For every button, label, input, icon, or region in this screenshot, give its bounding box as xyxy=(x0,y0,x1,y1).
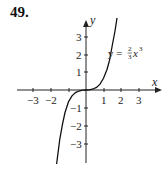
equation-numerator: 2 xyxy=(128,45,132,53)
y-axis-arrow-icon xyxy=(83,20,89,27)
y-tick-label: −3 xyxy=(70,138,82,150)
x-tick-label: 2 xyxy=(118,94,124,106)
equation-lhs: y = xyxy=(108,47,122,59)
y-axis-label: y xyxy=(89,13,96,27)
y-tick-label: 1 xyxy=(76,66,82,78)
x-tick-label: −2 xyxy=(45,94,57,106)
y-tick-label: 3 xyxy=(76,31,82,43)
equation-denominator: 3 xyxy=(128,53,132,61)
y-tick-label: −2 xyxy=(70,120,82,132)
equation-variable: x xyxy=(132,47,138,59)
equation-label: y = 2 3 x 3 xyxy=(108,45,143,61)
function-graph: −3 −2 1 2 3 3 2 1 −1 −2 −3 x y y = 2 3 x… xyxy=(0,0,166,170)
equation-exponent: 3 xyxy=(139,45,143,53)
x-axis-label: x xyxy=(151,75,158,89)
x-tick-label: −3 xyxy=(27,94,39,106)
y-tick-label: 2 xyxy=(76,49,82,61)
y-tick-label: −1 xyxy=(70,102,82,114)
cubic-curve xyxy=(57,18,117,164)
x-tick-label: 1 xyxy=(101,94,107,106)
x-tick-label: 3 xyxy=(136,94,142,106)
